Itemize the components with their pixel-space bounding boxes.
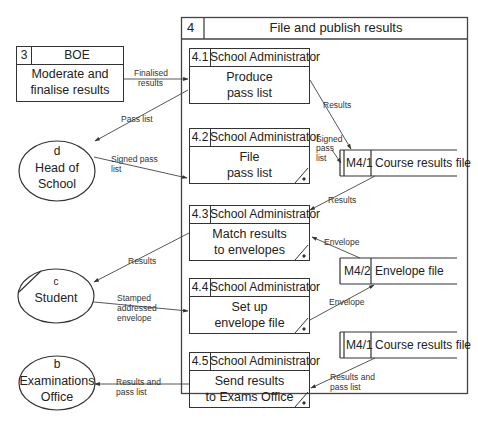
process-4-4-name-line1: Set up — [190, 299, 309, 315]
process-4-2-number: 4.2 — [190, 129, 211, 146]
entity-b-name-line2: Office — [19, 389, 95, 405]
process-4-1-name-line1: Produce — [190, 69, 309, 85]
process-4-5-name-line2: to Exams Office — [190, 389, 309, 405]
flow-label-results-pass-list-store-2: pass list — [330, 382, 361, 392]
process-4-2-name-line1: File — [190, 149, 309, 165]
parent-process-title: File and publish results — [204, 20, 468, 35]
entity-b-name-line1: Examinations — [19, 373, 95, 389]
process-4-3-name-line2: to envelopes — [190, 242, 309, 258]
flow-label-results-to-student: Results — [128, 256, 156, 266]
flow-label-signed-pass-list-1: Signed pass — [111, 154, 158, 164]
process-4-3-box[interactable]: 4.3 School Administrator Match results t… — [189, 205, 310, 261]
flow-label-envelope-to-4-3: Envelope — [324, 237, 359, 247]
data-store-m42-id: M4/2 — [344, 264, 371, 278]
process-4-1-box[interactable]: 4.1 School Administrator Produce pass li… — [189, 48, 310, 104]
process-3-box[interactable]: 3 BOE Moderate and finalise results — [16, 46, 124, 102]
data-store-m41-bottom-name: Course results file — [375, 338, 471, 352]
process-4-2-box[interactable]: 4.2 School Administrator File pass list — [189, 128, 310, 184]
flow-label-results-store-to-4-3: Results — [328, 195, 356, 205]
process-4-1-number: 4.1 — [190, 49, 211, 66]
flow-label-results-pass-list-exams-1: Results and — [116, 377, 161, 387]
process-4-5-box[interactable]: 4.5 School Administrator Send results to… — [189, 352, 310, 408]
process-3-name-line1: Moderate and — [17, 66, 123, 82]
flow-label-stamped-3: envelope — [117, 313, 152, 323]
process-3-name-line2: finalise results — [17, 82, 123, 98]
process-3-actor: BOE — [31, 47, 123, 64]
flow-label-results-4-1: Results — [323, 100, 351, 110]
process-4-4-name-line2: envelope file — [190, 315, 309, 331]
process-4-4-actor: School Administrator — [210, 279, 309, 296]
flow-label-pass-list: Pass list — [121, 114, 153, 124]
flow-label-stamped-1: Stamped — [117, 293, 151, 303]
data-store-m41-top-name: Course results file — [375, 156, 471, 170]
process-4-5-actor: School Administrator — [210, 353, 309, 370]
flow-label-signed-pass-list-2: list — [111, 164, 121, 174]
entity-d-name-line2: School — [19, 176, 95, 192]
flow-label-finalised-results-1: Finalised — [134, 68, 168, 78]
entity-c-id: c — [18, 276, 94, 287]
entity-d-name-line1: Head of — [19, 160, 95, 176]
process-4-4-box[interactable]: 4.4 School Administrator Set up envelope… — [189, 278, 310, 334]
data-store-m41-bottom-id: M4/1 — [346, 338, 373, 352]
entity-b-id: b — [19, 357, 95, 371]
parent-process-number: 4 — [187, 20, 194, 35]
process-4-2-actor: School Administrator — [210, 129, 309, 146]
data-store-m41-top-id: M4/1 — [346, 156, 373, 170]
entity-d-id: d — [19, 144, 95, 158]
process-4-5-name-line1: Send results — [190, 373, 309, 389]
process-4-3-number: 4.3 — [190, 206, 211, 223]
process-4-2-name-line2: pass list — [190, 165, 309, 181]
process-3-number: 3 — [17, 47, 32, 64]
process-4-3-name-line1: Match results — [190, 226, 309, 242]
process-4-5-number: 4.5 — [190, 353, 211, 370]
flow-label-finalised-results-2: results — [138, 78, 163, 88]
data-store-m42-name: Envelope file — [375, 264, 444, 278]
process-4-4-number: 4.4 — [190, 279, 211, 296]
process-4-3-actor: School Administrator — [210, 206, 309, 223]
flow-label-signed-3: list — [316, 153, 326, 163]
flow-label-signed-2: pass — [316, 143, 334, 153]
process-4-1-actor: School Administrator — [210, 49, 309, 66]
flow-label-envelope-to-store: Envelope — [329, 297, 364, 307]
flow-label-results-pass-list-store-1: Results and — [330, 372, 375, 382]
flow-label-stamped-2: addressed — [117, 303, 157, 313]
entity-c-name-line1: Student — [18, 290, 94, 306]
process-4-1-name-line2: pass list — [190, 85, 309, 101]
flow-label-results-pass-list-exams-2: pass list — [116, 387, 147, 397]
